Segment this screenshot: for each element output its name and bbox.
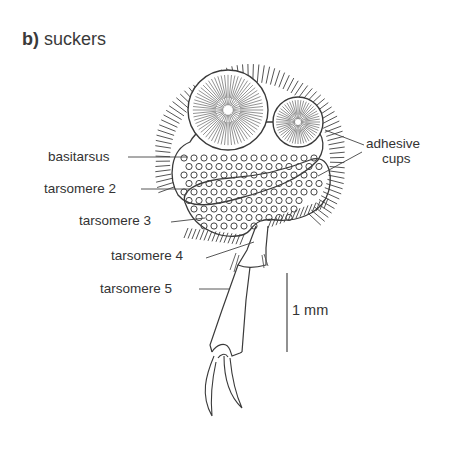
claw-left (205, 356, 216, 416)
tarsomere-5 (210, 265, 250, 352)
tarsomere-4 (238, 226, 268, 267)
label-adhesive: adhesive (366, 137, 420, 151)
label-tarsomere-4: tarsomere 4 (111, 249, 183, 263)
claw-base (212, 344, 242, 358)
scale-bar-label: 1 mm (292, 303, 328, 318)
label-tarsomere-3: tarsomere 3 (79, 214, 151, 228)
label-tarsomere-2: tarsomere 2 (44, 182, 116, 196)
leader-lines (128, 130, 364, 289)
claw-right (224, 356, 242, 408)
label-cups: cups (382, 152, 411, 166)
spines (230, 253, 268, 272)
leg-diagram (0, 0, 453, 458)
label-basitarsus: basitarsus (48, 150, 110, 164)
label-tarsomere-5: tarsomere 5 (100, 282, 172, 296)
